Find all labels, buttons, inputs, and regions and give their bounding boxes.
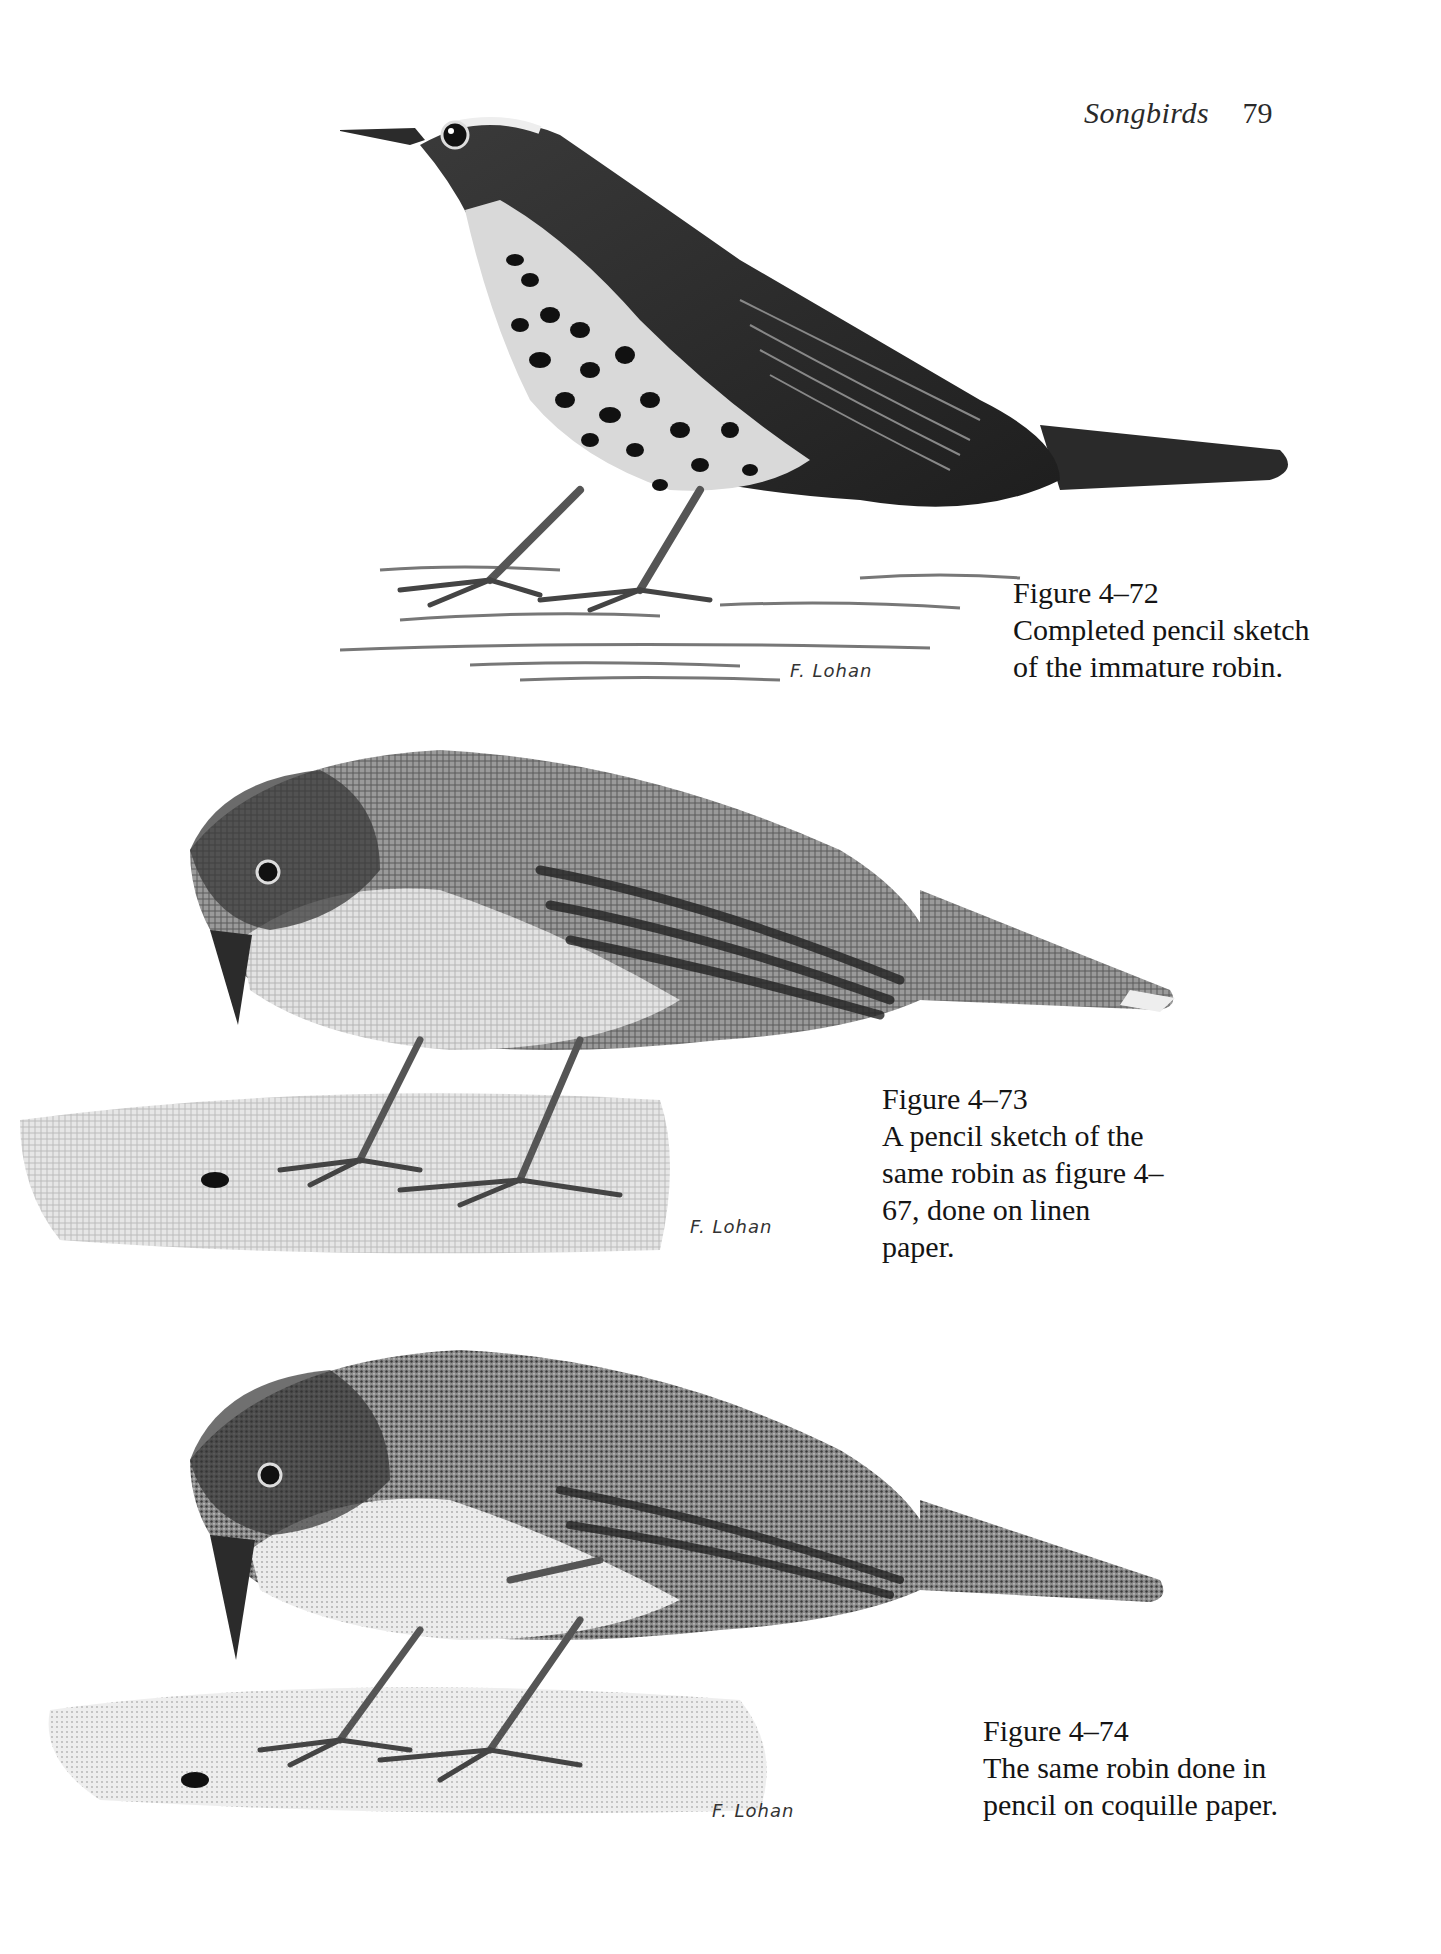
caption-line: A pencil sketch of the [882, 1117, 1164, 1154]
figure-4-73-caption: Figure 4–73 A pencil sketch of the same … [882, 1080, 1164, 1265]
caption-line: The same robin done in [983, 1749, 1278, 1786]
figure-label: Figure 4–72 [1013, 574, 1310, 611]
caption-line: Completed pencil sketch [1013, 611, 1310, 648]
caption-line: paper. [882, 1228, 1164, 1265]
figure-4-74-caption: Figure 4–74 The same robin done in penci… [983, 1712, 1278, 1823]
signature-4-72: F. Lohan [790, 660, 872, 681]
signature-4-73: F. Lohan [690, 1216, 772, 1237]
caption-line: pencil on coquille paper. [983, 1786, 1278, 1823]
book-page: Songbirds 79 [0, 0, 1441, 1954]
caption-line: of the immature robin. [1013, 648, 1310, 685]
figure-4-72-caption: Figure 4–72 Completed pencil sketch of t… [1013, 574, 1310, 685]
caption-line: same robin as figure 4– [882, 1154, 1164, 1191]
figure-label: Figure 4–74 [983, 1712, 1278, 1749]
signature-4-74: F. Lohan [712, 1800, 794, 1821]
caption-line: 67, done on linen [882, 1191, 1164, 1228]
figure-label: Figure 4–73 [882, 1080, 1164, 1117]
